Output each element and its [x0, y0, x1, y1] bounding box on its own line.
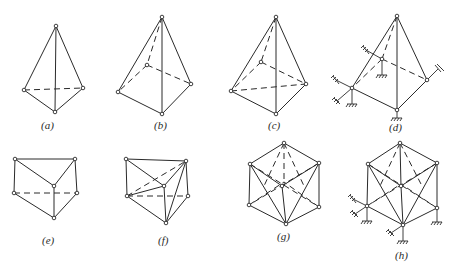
panel-label-e: (e)	[42, 234, 55, 247]
panel-label-b: (b)	[154, 119, 167, 132]
panel-label-a: (a)	[41, 119, 54, 132]
panel-a: (a)	[22, 24, 85, 132]
panel-e: (e)	[12, 157, 79, 247]
panel-label-h: (h)	[395, 249, 408, 262]
panel-f: (f)	[124, 157, 190, 247]
panel-h: (h)	[348, 141, 442, 262]
support-icon	[427, 64, 444, 80]
panel-label-g: (g)	[277, 230, 290, 243]
support-icon	[348, 194, 372, 224]
panel-c: (c)	[229, 15, 308, 132]
panel-label-f: (f)	[158, 234, 169, 247]
support-icon	[361, 45, 387, 78]
support-icon	[386, 225, 408, 244]
panel-label-d: (d)	[389, 121, 402, 134]
panel-b: (b)	[116, 15, 193, 132]
space-truss-figure: (a) (b) (c)	[0, 0, 456, 274]
panel-label-c: (c)	[268, 119, 281, 132]
panel-g: (g)	[247, 141, 321, 243]
support-icon	[331, 75, 357, 107]
panel-d: (d)	[331, 14, 444, 134]
